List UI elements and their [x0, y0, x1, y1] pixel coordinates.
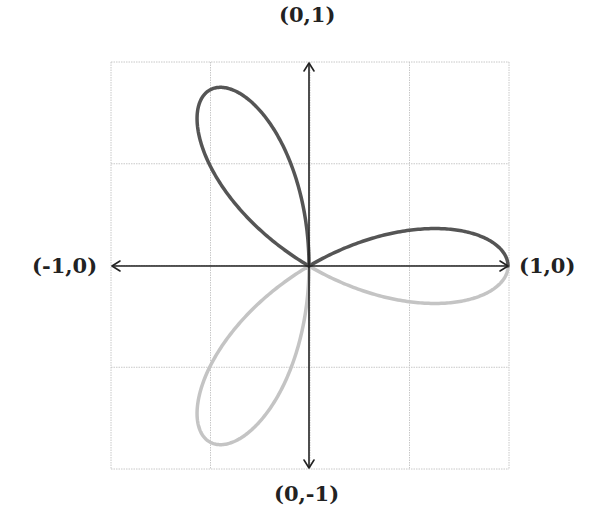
rose-petal-lower — [197, 266, 309, 445]
rose-petal-lower — [309, 266, 508, 303]
rose-petal-upper — [197, 87, 309, 266]
label-right: (1,0) — [519, 253, 575, 278]
rose-curve-upper-half — [197, 87, 508, 266]
rose-petal-upper — [309, 229, 508, 266]
label-bottom: (0,-1) — [274, 481, 339, 506]
label-top: (0,1) — [279, 2, 335, 27]
label-left: (-1,0) — [32, 253, 97, 278]
rose-curve-lower-half — [197, 266, 508, 445]
